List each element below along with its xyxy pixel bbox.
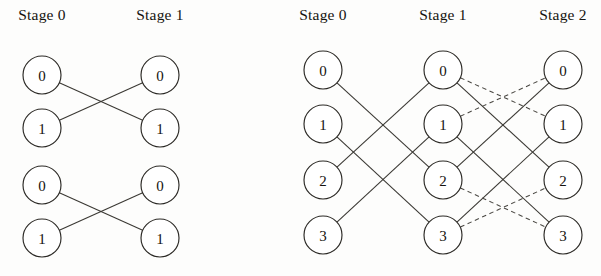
network-node[interactable]: 0 [304, 51, 342, 89]
network-node[interactable]: 1 [424, 105, 462, 143]
stage-label: Stage 1 [419, 6, 466, 23]
network-node[interactable]: 0 [141, 56, 179, 94]
node-label: 1 [38, 121, 46, 137]
node-label: 0 [319, 63, 327, 79]
stage-label: Stage 0 [299, 6, 347, 23]
network-node[interactable]: 3 [424, 216, 462, 254]
diagram-canvas: 01010101012301230123 Stage 0Stage 1Stage… [0, 0, 601, 276]
node-label: 0 [38, 68, 46, 84]
network-node[interactable]: 2 [424, 161, 462, 199]
node-label: 3 [319, 228, 327, 244]
node-label: 2 [559, 173, 567, 189]
network-node[interactable]: 2 [304, 161, 342, 199]
butterfly-network-figure: 01010101012301230123 Stage 0Stage 1Stage… [0, 0, 601, 276]
network-node[interactable]: 3 [544, 216, 582, 254]
network-node[interactable]: 1 [141, 219, 179, 257]
stage-label: Stage 2 [539, 6, 586, 23]
nodes-layer: 01010101012301230123 [23, 51, 582, 257]
network-node[interactable]: 3 [304, 216, 342, 254]
network-node[interactable]: 0 [23, 56, 61, 94]
node-label: 2 [439, 173, 447, 189]
stage-label: Stage 1 [136, 6, 183, 23]
stage-label: Stage 0 [18, 6, 66, 23]
node-label: 3 [559, 228, 567, 244]
node-label: 0 [38, 178, 46, 194]
network-node[interactable]: 0 [424, 51, 462, 89]
network-node[interactable]: 0 [23, 166, 61, 204]
network-node[interactable]: 0 [544, 51, 582, 89]
stage-labels-layer: Stage 0Stage 1Stage 0Stage 1Stage 2 [18, 6, 586, 23]
network-node[interactable]: 2 [544, 161, 582, 199]
node-label: 1 [156, 231, 164, 247]
network-node[interactable]: 1 [23, 219, 61, 257]
network-node[interactable]: 1 [544, 105, 582, 143]
node-label: 1 [156, 121, 164, 137]
node-label: 0 [156, 178, 164, 194]
node-label: 3 [439, 228, 447, 244]
node-label: 1 [319, 117, 327, 133]
node-label: 1 [38, 231, 46, 247]
network-node[interactable]: 0 [141, 166, 179, 204]
node-label: 0 [559, 63, 567, 79]
node-label: 1 [559, 117, 567, 133]
node-label: 0 [156, 68, 164, 84]
node-label: 0 [439, 63, 447, 79]
network-node[interactable]: 1 [23, 109, 61, 147]
network-node[interactable]: 1 [304, 105, 342, 143]
node-label: 2 [319, 173, 327, 189]
edges-layer [59, 78, 549, 230]
node-label: 1 [439, 117, 447, 133]
network-node[interactable]: 1 [141, 109, 179, 147]
